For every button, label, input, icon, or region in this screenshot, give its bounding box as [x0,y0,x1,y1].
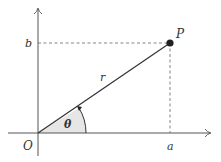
angle-label: θ [64,118,72,131]
radius-label: r [100,71,106,84]
origin-label: O [23,139,33,153]
point-label: P [175,27,185,41]
y-value-label: b [25,37,32,50]
radius-line [38,43,170,133]
polar-coordinate-diagram: P b a O r θ [0,0,221,162]
angle-wedge [38,108,86,133]
x-value-label: a [167,140,174,153]
point-p [166,39,173,46]
